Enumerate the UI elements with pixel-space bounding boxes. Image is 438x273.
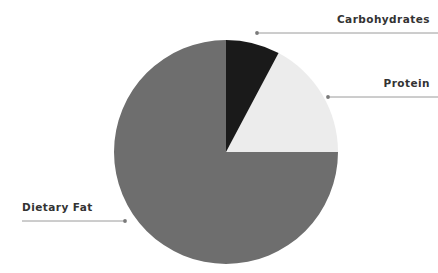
leader-dot-dietary-fat [123,219,127,223]
slice-label-dietary-fat: Dietary Fat [22,201,93,214]
leader-dot-protein [326,95,330,99]
slice-label-protein: Protein [384,77,430,90]
pie-slices [114,40,338,264]
leader-dot-carbohydrates [255,31,259,35]
slice-label-carbohydrates: Carbohydrates [337,13,430,26]
pie-chart-canvas [0,0,438,273]
pie-chart-figure: Carbohydrates Protein Dietary Fat [0,0,438,273]
